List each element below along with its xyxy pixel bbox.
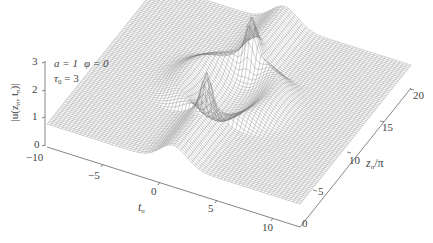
zn-tick-10: 10 [349, 155, 360, 166]
surface-mesh [47, 0, 411, 204]
mesh-lines-z [47, 0, 411, 204]
z-tick-3: 3 [32, 56, 38, 67]
z-axis-label: |u(zn, tn)| [9, 68, 22, 138]
z-tick-2: 2 [32, 84, 38, 95]
zn-tick-5: 5 [318, 186, 324, 197]
zn-tick-15: 15 [382, 122, 393, 133]
param-tau0: τ0 = 3 [54, 73, 79, 86]
zn-axis-label: zn/π [366, 157, 384, 171]
param-phi: φ = 0 [84, 58, 109, 69]
t-tick-m5: −5 [88, 170, 100, 181]
zn-tick-20: 20 [413, 90, 424, 101]
z-tick-1: 1 [32, 111, 38, 122]
zn-tick-0: 0 [302, 218, 308, 229]
t-tick-0: 0 [151, 186, 157, 197]
t-tick-m10: −10 [26, 152, 43, 163]
z-tick-0: 0 [34, 139, 40, 150]
t-tick-5: 5 [208, 203, 214, 214]
t-tick-10: 10 [262, 222, 273, 233]
t-axis-label: tn [138, 201, 145, 215]
surface-plot [0, 0, 433, 243]
param-a: a = 1 [54, 58, 78, 69]
